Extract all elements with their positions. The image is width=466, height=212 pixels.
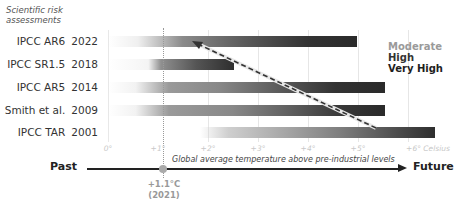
tick-1: +1°: [151, 144, 166, 153]
future-label: Future: [413, 160, 454, 173]
trend-dashed-arrow: [0, 0, 466, 212]
tick-5: +5°: [351, 144, 366, 153]
current-temperature-marker: [159, 165, 167, 173]
legend: Moderate High Very High: [388, 41, 443, 74]
legend-high: High: [388, 52, 443, 63]
current-value: +1.1°C: [146, 179, 182, 190]
tick-4: +4°: [301, 144, 316, 153]
past-label: Past: [50, 160, 77, 173]
current-year: (2021): [146, 190, 182, 201]
tick-3: +3°: [251, 144, 266, 153]
tick-6-celsius: +6° Celsius: [406, 144, 450, 153]
x-axis-title: Global average temperature above pre-ind…: [172, 155, 395, 164]
tick-2: +2°: [201, 144, 216, 153]
legend-very-high: Very High: [388, 63, 443, 74]
timeline-axis: [87, 168, 399, 170]
tick-0: 0°: [104, 144, 113, 153]
current-temperature-label: +1.1°C (2021): [146, 179, 182, 201]
arrow-right-icon: [398, 164, 407, 172]
legend-moderate: Moderate: [388, 41, 443, 52]
